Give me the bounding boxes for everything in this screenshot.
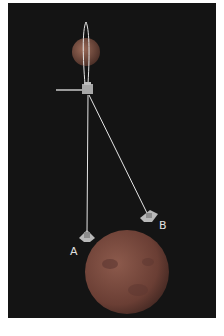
large-planet (85, 230, 169, 314)
signal-line-a (87, 95, 88, 232)
signal-line-b (89, 95, 147, 213)
spacecraft (56, 82, 93, 94)
label-b: B (159, 219, 167, 232)
diagram-canvas: A B (0, 0, 224, 336)
label-a: A (70, 245, 78, 258)
small-planet (72, 38, 100, 66)
lander-a (79, 230, 95, 242)
lander-b (140, 210, 158, 222)
